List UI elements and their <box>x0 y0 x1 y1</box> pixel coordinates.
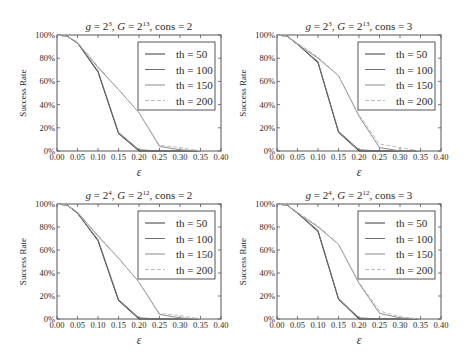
legend-label: th = 50 <box>176 217 208 229</box>
x-tick-label: 0.30 <box>173 152 188 162</box>
legend-label: th = 100 <box>176 64 213 76</box>
legend-label: th = 200 <box>396 264 433 276</box>
x-tick-label: 0.20 <box>132 152 147 162</box>
legend-label: th = 150 <box>396 248 433 260</box>
y-axis-label: Success Rate <box>18 238 28 285</box>
y-tick-label: 20% <box>39 291 55 301</box>
legend: th = 50th = 100th = 150th = 200 <box>138 211 215 279</box>
legend-label: th = 150 <box>176 79 213 91</box>
y-tick-label: 60% <box>259 245 275 255</box>
x-tick-label: 0.30 <box>173 320 188 330</box>
x-axis-label: ε <box>357 333 362 347</box>
x-tick-label: 0.20 <box>132 320 147 330</box>
x-axis-label: ε <box>357 165 362 179</box>
x-tick-label: 0.35 <box>193 152 208 162</box>
y-axis-label: Success Rate <box>238 69 248 116</box>
y-tick-label: 80% <box>39 222 55 232</box>
legend: th = 50th = 100th = 150th = 200 <box>358 42 435 110</box>
y-tick-label: 100% <box>35 199 55 209</box>
y-tick-label: 60% <box>39 76 55 86</box>
legend-label: th = 50 <box>396 217 428 229</box>
y-tick-label: 40% <box>39 100 55 110</box>
legend-label: th = 150 <box>176 248 213 260</box>
y-tick-label: 60% <box>39 245 55 255</box>
x-tick-label: 0.25 <box>372 320 387 330</box>
x-tick-label: 0.10 <box>311 320 326 330</box>
x-tick-label: 0.35 <box>193 320 208 330</box>
subplot-3: g = 24, G = 212, cons = 20.000.050.100.1… <box>18 189 228 347</box>
y-tick-label: 100% <box>255 30 275 40</box>
x-tick-label: 0.15 <box>331 320 346 330</box>
legend-label: th = 200 <box>176 95 213 107</box>
x-tick-label: 0.15 <box>111 320 126 330</box>
legend-label: th = 50 <box>176 48 208 60</box>
x-tick-label: 0.40 <box>434 320 449 330</box>
x-tick-label: 0.05 <box>290 320 305 330</box>
y-tick-label: 100% <box>255 199 275 209</box>
subplot-title: g = 24, G = 212, cons = 2 <box>86 189 193 201</box>
x-tick-label: 0.35 <box>413 152 428 162</box>
x-tick-label: 0.40 <box>434 152 449 162</box>
x-tick-label: 0.25 <box>152 152 167 162</box>
x-tick-label: 0.05 <box>70 320 85 330</box>
subplot-title: g = 24, G = 212, cons = 3 <box>306 189 413 201</box>
y-tick-label: 0% <box>264 146 275 156</box>
x-tick-label: 0.30 <box>393 320 408 330</box>
figure: g = 23, G = 213, cons = 20.000.050.100.1… <box>0 0 467 362</box>
y-tick-label: 20% <box>259 123 275 133</box>
legend-label: th = 200 <box>176 264 213 276</box>
legend-label: th = 100 <box>396 64 433 76</box>
y-axis-label: Success Rate <box>238 238 248 285</box>
y-tick-label: 20% <box>259 291 275 301</box>
y-tick-label: 40% <box>39 268 55 278</box>
x-tick-label: 0.35 <box>413 320 428 330</box>
legend: th = 50th = 100th = 150th = 200 <box>138 42 215 110</box>
x-tick-label: 0.15 <box>111 152 126 162</box>
legend-label: th = 200 <box>396 95 433 107</box>
legend-label: th = 150 <box>396 79 433 91</box>
y-tick-label: 0% <box>264 314 275 324</box>
x-tick-label: 0.25 <box>372 152 387 162</box>
x-tick-label: 0.15 <box>331 152 346 162</box>
y-tick-label: 0% <box>44 146 55 156</box>
subplot-4: g = 24, G = 212, cons = 30.000.050.100.1… <box>238 189 448 347</box>
x-tick-label: 0.30 <box>393 152 408 162</box>
x-tick-label: 0.05 <box>290 152 305 162</box>
y-tick-label: 100% <box>35 30 55 40</box>
y-tick-label: 80% <box>39 53 55 63</box>
x-axis-label: ε <box>137 333 142 347</box>
legend-label: th = 100 <box>396 233 433 245</box>
y-tick-label: 80% <box>259 222 275 232</box>
y-axis-label: Success Rate <box>18 69 28 116</box>
subplot-1: g = 23, G = 213, cons = 20.000.050.100.1… <box>18 20 228 179</box>
y-tick-label: 40% <box>259 100 275 110</box>
x-axis-label: ε <box>137 165 142 179</box>
x-tick-label: 0.25 <box>152 320 167 330</box>
x-tick-label: 0.05 <box>70 152 85 162</box>
x-tick-label: 0.10 <box>91 152 106 162</box>
subplot-title: g = 23, G = 213, cons = 2 <box>86 20 193 32</box>
legend-label: th = 50 <box>396 48 428 60</box>
x-tick-label: 0.40 <box>214 152 229 162</box>
legend-label: th = 100 <box>176 233 213 245</box>
y-tick-label: 80% <box>259 53 275 63</box>
subplot-title: g = 23, G = 213, cons = 3 <box>306 20 413 32</box>
subplot-2: g = 23, G = 213, cons = 30.000.050.100.1… <box>238 20 448 179</box>
x-tick-label: 0.10 <box>311 152 326 162</box>
legend: th = 50th = 100th = 150th = 200 <box>358 211 435 279</box>
x-tick-label: 0.20 <box>352 320 367 330</box>
x-tick-label: 0.20 <box>352 152 367 162</box>
x-tick-label: 0.40 <box>214 320 229 330</box>
y-tick-label: 40% <box>259 268 275 278</box>
y-tick-label: 0% <box>44 314 55 324</box>
y-tick-label: 20% <box>39 123 55 133</box>
x-tick-label: 0.10 <box>91 320 106 330</box>
y-tick-label: 60% <box>259 76 275 86</box>
